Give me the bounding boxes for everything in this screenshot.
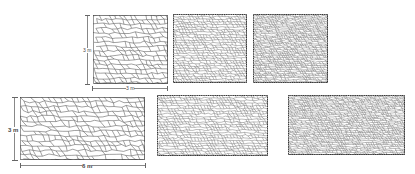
bottom-width-tick-right xyxy=(145,163,146,168)
cell-mesh xyxy=(253,14,328,83)
tessellation-panel-d xyxy=(20,97,145,160)
bottom-height-tick-top xyxy=(12,97,18,98)
bottom-width-tick-left xyxy=(20,163,21,168)
top-height-tick-top xyxy=(85,15,90,16)
tessellation-panel-b xyxy=(173,14,247,83)
top-width-tick-right xyxy=(167,86,168,91)
cell-mesh xyxy=(20,97,145,160)
cell-mesh xyxy=(157,95,268,156)
bottom-height-label: 3 m xyxy=(8,127,18,133)
top-width-tick-left xyxy=(92,86,93,91)
cell-mesh xyxy=(173,14,247,83)
tessellation-panel-a xyxy=(93,15,168,84)
top-height-tick-bottom xyxy=(85,84,90,85)
top-width-label: 3 m xyxy=(126,86,134,91)
bottom-height-tick-bottom xyxy=(12,160,18,161)
bottom-width-label: 6 m xyxy=(82,163,92,169)
tessellation-panel-f xyxy=(288,95,405,155)
cell-mesh xyxy=(288,95,405,155)
tessellation-panel-c xyxy=(253,14,328,83)
top-height-label: 3 m xyxy=(83,48,91,53)
tessellation-panel-e xyxy=(157,95,268,156)
cell-mesh xyxy=(93,15,168,84)
